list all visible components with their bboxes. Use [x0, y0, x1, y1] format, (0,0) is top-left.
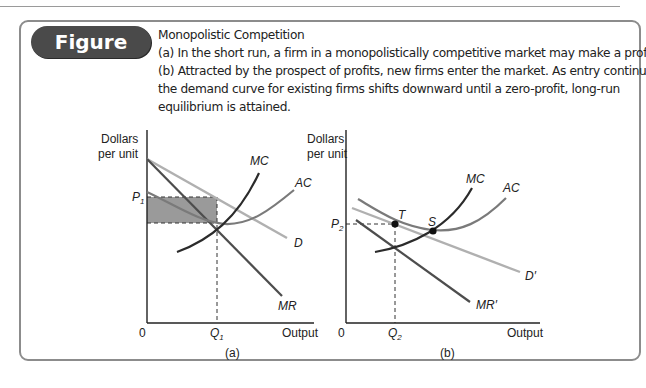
- x-axis-label: Output: [507, 326, 544, 340]
- panel-b-label: (b): [440, 346, 455, 360]
- origin-label: 0: [338, 326, 345, 340]
- origin-label: 0: [139, 326, 146, 340]
- mc-label: MC: [466, 172, 485, 186]
- panel-a-label: (a): [225, 346, 240, 360]
- y-axis-label: Dollars: [307, 132, 344, 146]
- mr-prime-label: MR′: [476, 298, 498, 312]
- panel-a-chart: Dollars per unit P1 MC AC D MR 0 Q1 Outp…: [98, 130, 319, 360]
- x-axis-label: Output: [282, 326, 319, 340]
- q2-label: Q2: [388, 326, 402, 342]
- ac-label: AC: [294, 176, 312, 190]
- p1-label: P1: [132, 190, 144, 206]
- charts-canvas: Dollars per unit P1 MC AC D MR 0 Q1 Outp…: [0, 0, 646, 388]
- y-axis-label: per unit: [307, 147, 348, 161]
- panel-b-chart: Dollars per unit P2 T S MC AC D′ MR′ 0 Q…: [307, 130, 544, 360]
- mr-label: MR: [278, 299, 297, 313]
- mc-curve: [375, 188, 472, 252]
- t-label: T: [398, 208, 407, 222]
- ac-label: AC: [502, 181, 520, 195]
- mc-label: MC: [250, 154, 269, 168]
- d-label: D: [294, 236, 303, 250]
- s-label: S: [428, 215, 436, 229]
- d-prime-label: D′: [525, 269, 537, 283]
- p2-label: P2: [331, 217, 344, 233]
- y-axis-label: per unit: [98, 147, 139, 161]
- y-axis-label: Dollars: [101, 132, 138, 146]
- mr-curve: [147, 159, 282, 296]
- q1-label: Q1: [210, 326, 224, 342]
